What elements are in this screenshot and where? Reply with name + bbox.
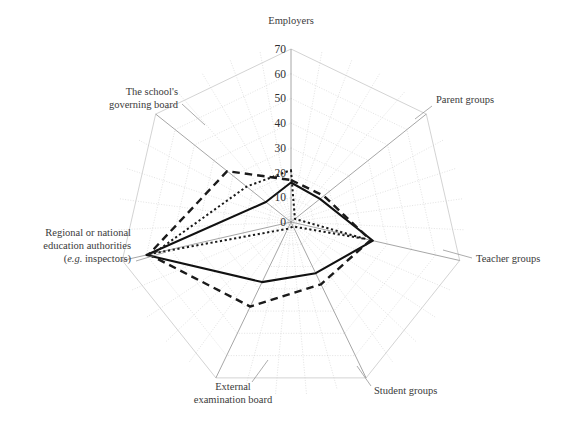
grid-fan-line: [291, 222, 416, 342]
grid-fan-line: [166, 222, 291, 342]
axis-label-5: Regional or nationaleducation authoritie…: [43, 227, 131, 265]
radial-tick-label-70: 70: [275, 43, 287, 55]
axis-labels-layer: EmployersParent groupsTeacher groupsStud…: [43, 15, 540, 405]
series-layer: [146, 170, 373, 307]
axis-spoke-2: [291, 222, 460, 261]
grid-fan-line: [291, 222, 435, 317]
radial-tick-label-50: 50: [275, 92, 287, 104]
grid-fan-line: [127, 169, 292, 223]
grid-fan-line: [291, 92, 405, 222]
axis-label-0: Employers: [268, 15, 314, 26]
grid-fan-line: [291, 199, 462, 222]
axis-label-leader-4: [252, 360, 268, 382]
grid-fan-line: [291, 140, 443, 222]
radial-tick-label-20: 20: [275, 167, 287, 179]
grid-fan-line: [291, 222, 450, 290]
leader-lines-layer: [136, 104, 472, 386]
axis-label-3: Student groups: [374, 385, 437, 396]
axis-label-2: Teacher groups: [476, 253, 540, 264]
grid-fan-line: [291, 222, 307, 394]
axis-label-leader-1: [415, 106, 432, 119]
axis-label-1: Parent groups: [436, 94, 494, 105]
radial-tick-label-0: 0: [280, 216, 286, 228]
radial-tick-label-60: 60: [275, 68, 287, 80]
series-polygon-dotted: [154, 170, 366, 253]
radar-chart-figure: 010203040506070 EmployersParent groupsTe…: [0, 0, 568, 431]
grid-fan-line: [276, 222, 292, 394]
axis-label-leader-6: [182, 104, 205, 125]
radial-tick-label-10: 10: [275, 191, 287, 203]
radial-tick-label-40: 40: [275, 117, 287, 129]
radar-chart-canvas: 010203040506070 EmployersParent groupsTe…: [0, 0, 568, 431]
axis-spoke-3: [291, 222, 366, 378]
axis-label-6: The school'sgoverning board: [109, 86, 179, 110]
axis-label-leader-3: [357, 366, 371, 386]
radial-tick-label-30: 30: [275, 142, 287, 154]
grid-fan-line: [291, 222, 337, 389]
grid-fan-line: [147, 222, 291, 317]
axis-label-4: Externalexamination board: [194, 381, 273, 405]
tick-labels-layer: 010203040506070: [275, 43, 287, 228]
grid-fan-line: [291, 222, 393, 362]
axis-spoke-4: [216, 222, 291, 378]
